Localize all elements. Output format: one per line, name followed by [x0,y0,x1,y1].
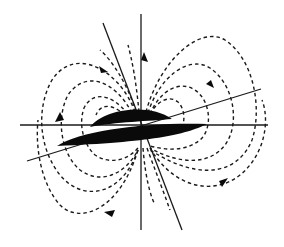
arrow-icon [104,210,115,217]
lower-lens [57,124,207,146]
field-line [146,37,256,171]
arrow-icon [99,66,108,73]
field-line [100,50,136,112]
arrow-icon [206,80,214,88]
bodies [57,109,207,146]
field-line [42,63,138,191]
arrow-icon [55,112,64,122]
field-line [143,148,155,205]
field-diagram [0,0,284,247]
axis-lines [20,14,268,230]
arrow-icon [141,52,148,62]
field-line [147,148,170,210]
